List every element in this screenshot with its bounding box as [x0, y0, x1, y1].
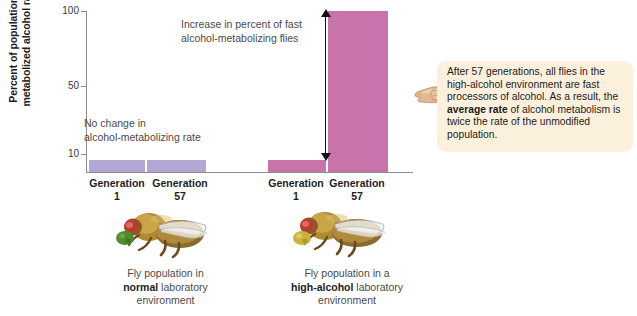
- x-label-word: Generation: [89, 177, 144, 189]
- caption-high-population: Fly population in a high-alcohol laborat…: [272, 267, 422, 308]
- y-tick-label-10: 10: [21, 148, 79, 159]
- y-tick-10: [81, 154, 86, 155]
- annotation-no-change-line2: alcohol-metabolizing rate: [84, 131, 201, 145]
- bar-normal-generation-1: [89, 160, 145, 172]
- caption-normal-line2: normal laboratory: [98, 281, 233, 295]
- x-label-high-generation-1: Generation 1: [261, 177, 331, 203]
- callout-box: After 57 generations, all flies in the h…: [437, 61, 633, 152]
- caption-high-bold: high-alcohol: [291, 281, 353, 293]
- fruit-fly-icon-normal: [113, 205, 217, 263]
- x-label-number: 1: [261, 190, 331, 203]
- x-label-word: Generation: [268, 177, 323, 189]
- annotation-increase-line1: Increase in percent of fast: [181, 18, 302, 32]
- x-label-normal-generation-1: Generation 1: [82, 177, 152, 203]
- y-axis-title-line1: Percent of population that: [7, 0, 20, 127]
- y-axis-title: Percent of population that metabolized a…: [7, 0, 33, 127]
- caption-normal-line3: environment: [98, 294, 233, 308]
- caption-high-tail: laboratory: [353, 281, 403, 293]
- annotation-increase-line2: alcohol-metabolizing flies: [181, 32, 302, 46]
- y-tick-label-50: 50: [21, 80, 79, 91]
- fruit-fly-icon-high: [287, 203, 395, 263]
- caption-normal-bold: normal: [123, 281, 158, 293]
- double-arrow-vertical-icon: [325, 14, 326, 159]
- caption-high-line1: Fly population in a: [272, 267, 422, 281]
- x-axis-line: [86, 172, 413, 173]
- caption-high-line3: environment: [272, 294, 422, 308]
- y-tick-50: [81, 86, 86, 87]
- callout-text-bold: average rate: [447, 104, 508, 115]
- figure-root: Percent of population that metabolized a…: [0, 0, 637, 316]
- bar-high-generation-1: [268, 160, 326, 172]
- x-label-word: Generation: [152, 177, 207, 189]
- bar-normal-generation-57: [147, 160, 206, 172]
- annotation-increase: Increase in percent of fast alcohol-meta…: [181, 18, 302, 45]
- annotation-no-change: No change in alcohol-metabolizing rate: [84, 117, 201, 144]
- caption-normal-tail: laboratory: [158, 281, 208, 293]
- x-label-word: Generation: [329, 177, 384, 189]
- caption-normal-population: Fly population in normal laboratory envi…: [98, 267, 233, 308]
- x-label-number: 1: [82, 190, 152, 203]
- caption-normal-line1: Fly population in: [98, 267, 233, 281]
- callout-text-part1: After 57 generations, all flies in the h…: [447, 66, 618, 102]
- y-tick-label-100: 100: [21, 5, 79, 16]
- y-axis-line: [86, 11, 87, 173]
- x-label-number: 57: [322, 190, 392, 203]
- arrow-head-down-icon: [321, 153, 331, 161]
- x-label-high-generation-57: Generation 57: [322, 177, 392, 203]
- arrow-head-up-icon: [321, 9, 331, 17]
- x-label-normal-generation-57: Generation 57: [145, 177, 215, 203]
- y-tick-100: [81, 11, 86, 12]
- caption-high-line2: high-alcohol laboratory: [272, 281, 422, 295]
- annotation-no-change-line1: No change in: [84, 117, 201, 131]
- bar-high-generation-57: [328, 11, 388, 172]
- x-label-number: 57: [145, 190, 215, 203]
- y-axis-title-line2: metabolized alcohol rapidly: [20, 0, 33, 127]
